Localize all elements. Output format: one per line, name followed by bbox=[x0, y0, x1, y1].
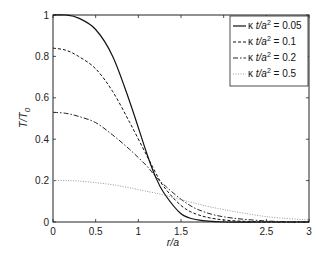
x-tick-label: 0 bbox=[50, 226, 56, 237]
line-chart: 00.511.52.5300.20.40.60.81 r/a T/T0 κ t/… bbox=[0, 0, 327, 258]
y-tick-label: 0 bbox=[43, 217, 49, 228]
y-tick-label: 0.8 bbox=[35, 51, 49, 62]
legend-entry: κ t/a2 = 0.05 bbox=[248, 19, 302, 31]
x-tick-label: 0.5 bbox=[89, 226, 103, 237]
y-tick-label: 0.2 bbox=[35, 175, 49, 186]
legend-entry: κ t/a2 = 0.2 bbox=[248, 51, 297, 63]
legend-entry: κ t/a2 = 0.1 bbox=[248, 35, 297, 47]
legend-entry: κ t/a2 = 0.5 bbox=[248, 67, 297, 79]
x-tick-label: 2.5 bbox=[259, 226, 273, 237]
y-axis-label: T/T0 bbox=[17, 107, 32, 128]
legend: κ t/a2 = 0.05κ t/a2 = 0.1κ t/a2 = 0.2κ t… bbox=[230, 16, 308, 86]
y-tick-label: 1 bbox=[43, 10, 49, 21]
x-tick-label: 3 bbox=[306, 226, 312, 237]
svg-text:T/T0: T/T0 bbox=[17, 107, 32, 128]
x-tick-label: 1 bbox=[136, 226, 142, 237]
x-axis-label: r/a bbox=[167, 236, 179, 248]
y-tick-label: 0.6 bbox=[35, 92, 49, 103]
svg-text:r/a: r/a bbox=[167, 236, 179, 248]
y-tick-label: 0.4 bbox=[35, 134, 49, 145]
